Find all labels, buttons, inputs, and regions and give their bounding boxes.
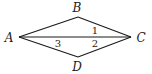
vertex-label-c: C: [136, 31, 145, 45]
angle-label-3: 3: [55, 38, 61, 49]
segment-da: [19, 37, 78, 57]
vertex-label-b: B: [72, 1, 82, 15]
segment-bc: [78, 17, 131, 37]
angle-label-2: 2: [92, 38, 98, 49]
segment-ab: [19, 17, 78, 37]
vertex-label-a: A: [4, 31, 14, 45]
angle-label-1: 1: [92, 25, 98, 36]
quadrilateral-diagram: A B C D 1 2 3: [0, 0, 152, 74]
segment-cd: [78, 37, 131, 57]
segments: [19, 17, 131, 57]
vertex-label-d: D: [71, 60, 82, 74]
